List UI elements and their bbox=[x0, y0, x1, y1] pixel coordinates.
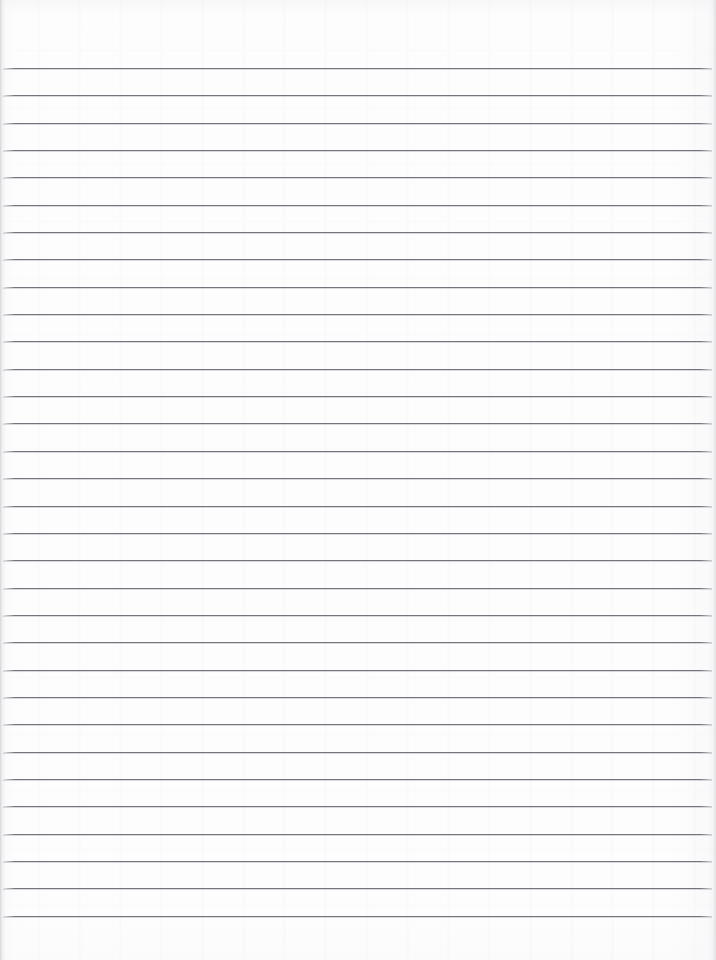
rule-line bbox=[3, 205, 712, 206]
rule-line bbox=[3, 150, 712, 151]
rule-line bbox=[3, 697, 712, 698]
rule-line bbox=[3, 588, 712, 589]
bottom-margin bbox=[0, 928, 716, 960]
rule-line bbox=[3, 560, 712, 561]
rule-line bbox=[3, 123, 712, 124]
rule-line bbox=[3, 177, 712, 178]
rule-line bbox=[3, 888, 712, 889]
rule-line bbox=[3, 779, 712, 780]
rule-line bbox=[3, 724, 712, 725]
rule-line bbox=[3, 670, 712, 671]
rule-line bbox=[3, 642, 712, 643]
rule-line bbox=[3, 423, 712, 424]
rule-line bbox=[3, 861, 712, 862]
rule-line bbox=[3, 95, 712, 96]
rule-line bbox=[3, 68, 712, 69]
rule-line bbox=[3, 478, 712, 479]
rule-line bbox=[3, 506, 712, 507]
rule-line bbox=[3, 232, 712, 233]
rule-line bbox=[3, 396, 712, 397]
rule-line bbox=[3, 806, 712, 807]
rule-line bbox=[3, 916, 712, 917]
rule-line bbox=[3, 341, 712, 342]
rule-line bbox=[3, 314, 712, 315]
scanned-page bbox=[0, 0, 716, 960]
rule-line bbox=[3, 287, 712, 288]
rule-line bbox=[3, 752, 712, 753]
rule-line bbox=[3, 451, 712, 452]
rule-line bbox=[3, 369, 712, 370]
rule-line bbox=[3, 259, 712, 260]
rule-line bbox=[3, 533, 712, 534]
rule-line bbox=[3, 615, 712, 616]
ruled-lines-group bbox=[0, 0, 716, 960]
rule-line bbox=[3, 834, 712, 835]
